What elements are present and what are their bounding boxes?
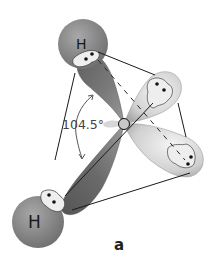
bonding-lobe-bottom [61, 124, 124, 215]
bond-angle-label: 104.5° [62, 117, 104, 132]
electron-icon [162, 88, 166, 92]
electron-icon [189, 155, 193, 159]
electron-icon [186, 162, 190, 166]
lone-pair-lobe-lower [124, 124, 203, 177]
electron-icon [155, 82, 159, 86]
figure-caption: a [114, 236, 124, 254]
water-molecule-diagram: H H 104.5° a [0, 0, 221, 265]
electron-icon [52, 200, 56, 204]
electron-icon [84, 57, 88, 61]
lone-pair-lobe-upper [124, 72, 181, 124]
electron-icon [47, 193, 51, 197]
hydrogen-atom-top: H [58, 19, 108, 69]
electron-icon [90, 52, 94, 56]
atom-label-h-bottom: H [28, 212, 41, 232]
atom-label-h-top: H [76, 36, 87, 52]
oxygen-center [119, 119, 130, 130]
hydrogen-atom-bottom: H [12, 190, 65, 248]
